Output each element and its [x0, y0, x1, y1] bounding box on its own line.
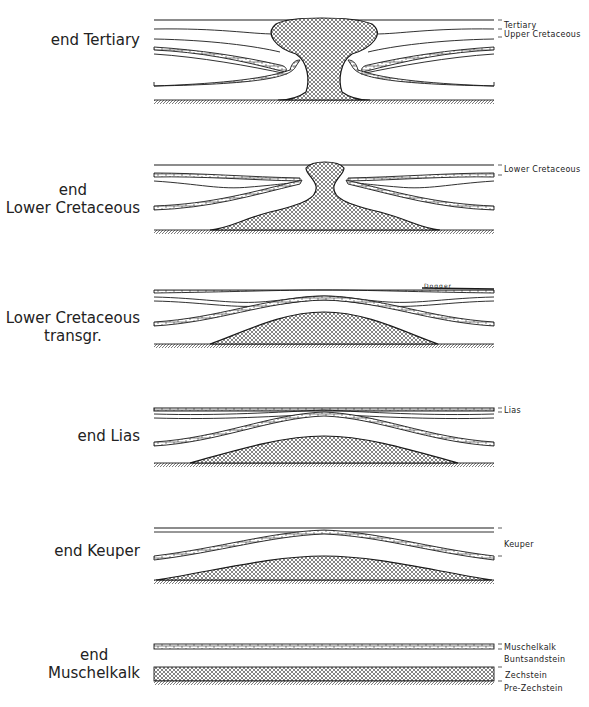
panel-end-keuper — [154, 528, 494, 584]
unit-tick-marks — [498, 20, 502, 681]
unit-label-zechstein: Zechstein — [505, 671, 547, 680]
cross-section-diagram — [0, 0, 589, 707]
unit-label-lower-cretaceous: Lower Cretaceous — [504, 165, 580, 174]
unit-label-dogger: Dogger — [424, 281, 452, 290]
unit-label-buntsandstein: Buntsandstein — [504, 655, 565, 664]
unit-label-lias: Lias — [504, 406, 521, 415]
panel-end-tertiary — [154, 18, 494, 104]
unit-label-tertiary: Tertiary — [504, 21, 536, 30]
unit-label-keuper: Keuper — [504, 540, 534, 549]
panel-end-lower-cretaceous — [154, 162, 494, 234]
unit-label-muschelkalk: Muschelkalk — [504, 643, 556, 652]
unit-label-pre-zechstein: Pre-Zechstein — [504, 684, 563, 693]
unit-label-upper-cretaceous: Upper Cretaceous — [504, 30, 581, 39]
panel-end-muschelkalk — [154, 644, 494, 685]
panel-end-lias — [154, 408, 494, 467]
panel-lower-cretaceous-transgr — [154, 288, 494, 348]
